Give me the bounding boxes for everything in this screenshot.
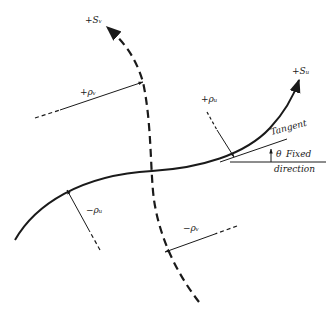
rho-v-neg-dash: [215, 226, 237, 234]
rho-u-pos-dash: [207, 112, 217, 130]
rho-u-pos-arrow: [217, 130, 234, 157]
label-rho-u-neg: −ρᵤ: [86, 206, 102, 215]
diagram-svg: [0, 0, 334, 319]
label-s-v: +Sᵥ: [85, 16, 102, 25]
label-s-u: +Sᵤ: [292, 67, 309, 76]
label-rho-v-pos: +ρᵥ: [80, 88, 96, 97]
rho-v-pos-arrow: [60, 82, 143, 110]
label-rho-v-neg: −ρᵥ: [183, 224, 199, 233]
label-rho-u-pos: +ρᵤ: [201, 95, 217, 104]
rho-v-pos-dash: [35, 110, 60, 118]
diagram-canvas: +Sᵥ +Sᵤ +ρᵥ +ρᵤ −ρᵤ −ρᵥ Tangent θ Fixed …: [0, 0, 334, 319]
label-theta: θ: [276, 150, 281, 159]
rho-v-neg-arrow: [165, 234, 215, 252]
rho-u-neg-dash: [90, 232, 100, 250]
label-fixed: Fixed: [286, 150, 311, 159]
v-curve: [107, 27, 199, 302]
label-direction: direction: [274, 165, 315, 174]
